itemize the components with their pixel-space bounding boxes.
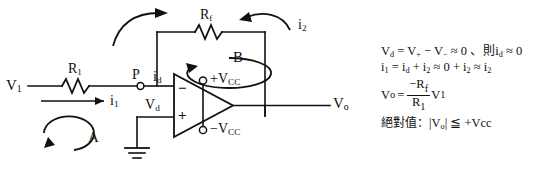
- label-loop-a: A: [88, 130, 99, 145]
- current-arrow-i1: [41, 97, 104, 105]
- opamp-noninverting-input-sign: +: [178, 108, 187, 123]
- label-vo: Vo: [333, 96, 349, 112]
- vcc-positive-terminal: [199, 77, 206, 84]
- label-id: id: [153, 70, 162, 85]
- label-r1: R1: [68, 62, 82, 77]
- arrow-to-rf-left: [113, 8, 168, 46]
- node-p-terminal: [137, 83, 144, 90]
- label-node-p: P: [132, 68, 140, 82]
- resistor-r1-symbol: [62, 79, 89, 93]
- loop-arrow-a: [44, 116, 94, 150]
- label-rf: Rf: [200, 8, 212, 23]
- resistor-rf-symbol: [195, 25, 222, 39]
- label-i2: i2: [298, 18, 307, 33]
- equation-line-2: i1 = id + i2 ≈ 0 + i2 ≈ i2: [381, 61, 549, 75]
- label-v1: RV1: [6, 78, 22, 94]
- equation-line-1: Vd = V+ − V− ≈ 0 、則id ≈ 0: [381, 45, 549, 59]
- label-vcc-positive: +VCC: [210, 72, 240, 87]
- vcc-negative-terminal: [199, 126, 206, 133]
- fraction-rf-over-r1: −RfR1: [407, 78, 430, 112]
- opamp-inverting-input-sign: −: [178, 81, 187, 96]
- opamp-inverting-amplifier-figure: RV1 R1 Rf P i1 i2 id Vd A B +VCC −VCC Vo…: [0, 0, 553, 174]
- label-loop-b: B: [233, 50, 243, 65]
- label-vd: Vd: [145, 98, 160, 113]
- label-i1: i1: [110, 94, 119, 109]
- equation-line-4: 絕對值：|Vo| ≦ +Vcc: [381, 117, 549, 131]
- equation-line-3: Vo=−RfR1V1: [381, 78, 549, 112]
- arrow-to-rf-right: [239, 12, 290, 30]
- equation-block: Vd = V+ − V− ≈ 0 、則id ≈ 0 i1 = id + i2 ≈…: [381, 45, 549, 133]
- label-vcc-negative: −VCC: [210, 122, 240, 137]
